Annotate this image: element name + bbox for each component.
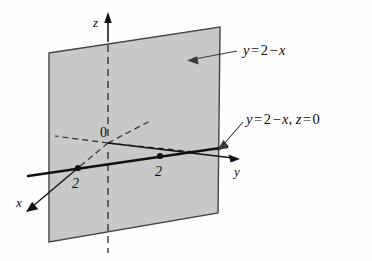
- plane-eq-rhs: x: [279, 42, 285, 58]
- trace-eq-minus: −: [271, 111, 282, 127]
- x-intercept-label: 2: [72, 177, 79, 191]
- origin-label: 0: [100, 126, 107, 140]
- trace-eq-equals: =: [252, 111, 263, 127]
- plane-equation-label: y=2−x: [243, 43, 286, 58]
- trace-equation-label: y=2−x, z=0: [246, 112, 320, 127]
- y-axis-label: y: [234, 165, 240, 178]
- plane-eq-equals: =: [249, 42, 260, 58]
- x-axis-label: x: [16, 196, 22, 209]
- z-axis-label: z: [93, 16, 98, 29]
- trace-eq-zval: 0: [313, 111, 320, 127]
- trace-label-leader: [223, 122, 243, 145]
- diagram-svg: [0, 0, 372, 261]
- figure-canvas: z y x 0 2 2 y=2−x y=2−x, z=0: [0, 0, 372, 261]
- x-intercept-dot: [75, 165, 81, 171]
- y-axis-arrowhead: [229, 154, 241, 162]
- y-intercept-dot: [157, 153, 163, 159]
- trace-eq-constant: 2: [264, 111, 271, 127]
- trace-eq-equals2: =: [301, 111, 312, 127]
- y-intercept-label: 2: [155, 165, 162, 179]
- plane-eq-minus: −: [268, 42, 279, 58]
- plane-eq-constant: 2: [261, 42, 268, 58]
- z-axis-arrowhead: [104, 12, 112, 23]
- trace-eq-comma: ,: [289, 111, 293, 127]
